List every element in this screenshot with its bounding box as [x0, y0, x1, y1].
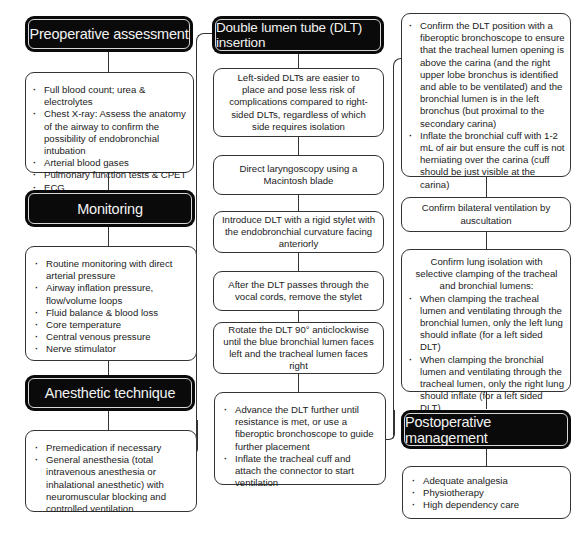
preoperative-assessment-box: Full blood count; urea & electrolytes Ch… — [25, 72, 194, 173]
connector-left-to-middle — [196, 33, 214, 503]
list-item: When clamping the bronchial lumen and ve… — [408, 354, 565, 415]
list-item: Central venous pressure — [34, 331, 190, 343]
lung-isolation-box: Confirm lung isolation with selective cl… — [401, 249, 571, 392]
bilateral-ventilation-box: Confirm bilateral ventilation by auscult… — [401, 197, 571, 232]
list-item: Airway inflation pressure, flow/volume l… — [34, 282, 190, 306]
list-item: High dependency care — [411, 499, 565, 511]
step-text: Rotate the DLT 90° anticlockwise until t… — [220, 324, 377, 373]
list-item: Inflate the tracheal cuff and attach the… — [223, 453, 379, 490]
postoperative-management-header: Postoperative management — [401, 410, 571, 449]
list-item: Routine monitoring with direct arterial … — [34, 258, 190, 282]
monitoring-list: Routine monitoring with direct arterial … — [34, 258, 190, 356]
list-item: Full blood count; urea & electrolytes — [32, 84, 187, 108]
anesthetic-technique-header: Anesthetic technique — [25, 375, 195, 411]
dlt-step-box: Direct laryngoscopy using a Macintosh bl… — [213, 155, 384, 195]
connector — [298, 252, 299, 272]
monitoring-box: Routine monitoring with direct arterial … — [25, 246, 197, 361]
list-item: Chest X-ray: Assess the anatomy of the a… — [32, 108, 187, 157]
connector — [298, 194, 299, 212]
anesthetic-technique-box: Premedication if necessary General anest… — [25, 430, 197, 512]
section-title: Preoperative assessment — [28, 19, 190, 49]
confirm-position-list: Confirm the DLT position with a fiberopt… — [408, 20, 566, 191]
list-item: Fluid balance & blood loss — [34, 307, 190, 319]
list-item: Nerve stimulator — [34, 343, 190, 355]
dlt-step-box: Rotate the DLT 90° anticlockwise until t… — [213, 322, 384, 374]
list-item: Advance the DLT further until resistance… — [223, 404, 379, 453]
section-title: Postoperative management — [404, 413, 568, 446]
list-item: Inflate the bronchial cuff with 1-2 mL o… — [408, 130, 566, 191]
connector — [108, 359, 109, 376]
monitoring-header: Monitoring — [25, 190, 195, 227]
postoperative-list: Adequate analgesia Physiotherapy High de… — [411, 475, 565, 512]
dlt-step-box: After the DLT passes through the vocal c… — [213, 271, 384, 311]
list-item: Core temperature — [34, 319, 190, 331]
anesthetic-list: Premedication if necessary General anest… — [34, 442, 190, 515]
section-title: Anesthetic technique — [28, 378, 192, 408]
lung-isolation-intro: Confirm lung isolation with selective cl… — [408, 256, 565, 293]
connector — [486, 447, 487, 467]
list-item: Pulmonary function tests & CPET — [32, 169, 187, 181]
list-item: Confirm the DLT position with a fiberopt… — [408, 20, 566, 130]
dlt-step-box: Left-sided DLTs are easier to place and … — [213, 68, 384, 137]
step-text: Introduce DLT with a rigid stylet with t… — [220, 214, 377, 251]
list-item: Adequate analgesia — [411, 475, 565, 487]
postoperative-management-box: Adequate analgesia Physiotherapy High de… — [402, 466, 571, 519]
connector — [108, 50, 109, 72]
section-title: Monitoring — [28, 193, 192, 224]
list-item: When clamping the tracheal lumen and ven… — [408, 293, 565, 354]
dlt-final-list: Advance the DLT further until resistance… — [223, 404, 379, 489]
section-title: Double lumen tube (DLT) insertion — [215, 19, 381, 51]
confirm-dlt-position-box: Confirm the DLT position with a fiberopt… — [401, 13, 571, 177]
step-text: Confirm bilateral ventilation by auscult… — [420, 202, 552, 226]
list-item: Premedication if necessary — [34, 442, 190, 454]
step-text: Left-sided DLTs are easier to place and … — [226, 72, 371, 133]
step-text: After the DLT passes through the vocal c… — [226, 279, 371, 303]
step-text: Direct laryngoscopy using a Macintosh bl… — [226, 163, 371, 187]
connector — [486, 231, 487, 250]
connector — [298, 373, 299, 393]
connector — [298, 52, 299, 68]
list-item: General anesthesia (total intravenous an… — [34, 454, 190, 515]
dlt-insertion-header: Double lumen tube (DLT) insertion — [212, 16, 384, 54]
list-item: Physiotherapy — [411, 487, 565, 499]
preoperative-list: Full blood count; urea & electrolytes Ch… — [32, 84, 187, 194]
list-item: Arterial blood gases — [32, 157, 187, 169]
dlt-step-box: Introduce DLT with a rigid stylet with t… — [213, 211, 384, 253]
connector — [393, 130, 394, 438]
connector — [298, 136, 299, 156]
connector — [108, 225, 109, 248]
connector — [108, 410, 109, 431]
lung-isolation-list: When clamping the tracheal lumen and ven… — [408, 293, 565, 415]
preoperative-assessment-header: Preoperative assessment — [25, 16, 193, 52]
dlt-final-step-box: Advance the DLT further until resistance… — [214, 392, 386, 485]
